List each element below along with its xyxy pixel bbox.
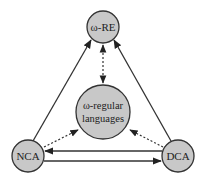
node-nca: NCA — [12, 140, 44, 172]
node-nca-label: NCA — [16, 150, 39, 162]
node-center-label-line2: languages — [82, 113, 124, 124]
node-omega-regular-languages: ω-regular languages — [76, 85, 130, 139]
node-omega-re-label: ω-RE — [91, 21, 116, 33]
node-omega-re: ω-RE — [87, 11, 119, 43]
node-dca: DCA — [162, 140, 194, 172]
node-center-label-line1: ω-regular — [83, 100, 124, 111]
edge-nca-to-center — [44, 130, 78, 147]
automata-relationship-diagram: ω-RE ω-regular languages NCA DCA — [0, 0, 206, 183]
node-dca-label: DCA — [166, 150, 189, 162]
edge-dca-to-center — [130, 130, 163, 147]
